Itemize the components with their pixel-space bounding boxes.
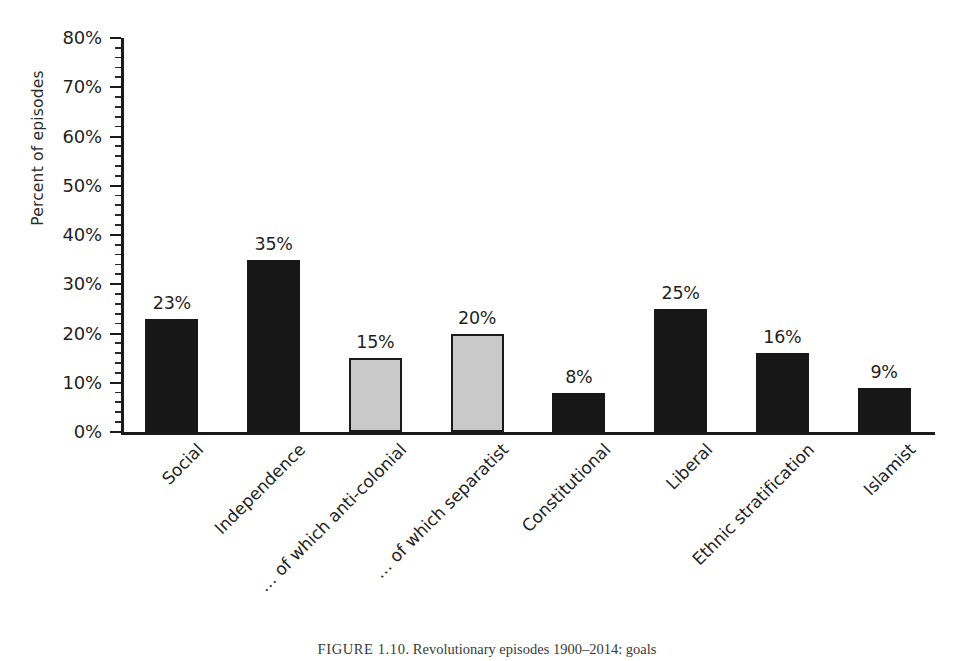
figure-caption-separator: . xyxy=(406,641,410,657)
y-axis-major-tick xyxy=(110,431,121,433)
y-axis-major-tick xyxy=(110,333,121,335)
figure-caption-text: Revolutionary episodes 1900–2014: goals xyxy=(413,641,657,657)
figure-number: FIGURE 1.10 xyxy=(318,641,406,657)
y-tick-label: 40% xyxy=(38,226,102,244)
y-axis-major-tick xyxy=(110,136,121,138)
y-tick-label: 20% xyxy=(38,325,102,343)
bar-group: 15% xyxy=(349,38,402,432)
x-axis-category-label: Social xyxy=(159,440,208,489)
y-axis-major-tick xyxy=(110,37,121,39)
y-axis-major-tick xyxy=(110,382,121,384)
bar-group: 25% xyxy=(654,38,707,432)
y-tick-label: 70% xyxy=(38,78,102,96)
y-tick-label: 30% xyxy=(38,275,102,293)
bar[interactable] xyxy=(756,353,809,432)
bar[interactable] xyxy=(552,393,605,432)
x-axis-category-labels: SocialIndependence… of which anti-coloni… xyxy=(121,432,935,612)
y-axis-major-tick xyxy=(110,86,121,88)
bar-value-label: 23% xyxy=(123,294,220,312)
x-axis-category-label: Independence xyxy=(211,440,309,538)
y-axis-major-tick xyxy=(110,283,121,285)
y-axis-major-tick xyxy=(110,234,121,236)
bar-group: 8% xyxy=(552,38,605,432)
bar-group: 23% xyxy=(145,38,198,432)
bar[interactable] xyxy=(145,319,198,432)
bar-group: 20% xyxy=(451,38,504,432)
bar-value-label: 35% xyxy=(225,235,322,253)
bars-layer: 23%35%15%20%8%25%16%9% xyxy=(121,38,935,432)
plot-area: 23%35%15%20%8%25%16%9% xyxy=(121,38,935,432)
bar[interactable] xyxy=(654,309,707,432)
bar[interactable] xyxy=(349,358,402,432)
x-axis-category-label: Islamist xyxy=(860,440,919,499)
y-tick-label: 0% xyxy=(38,423,102,441)
y-tick-label: 50% xyxy=(38,177,102,195)
x-axis-category-label: Liberal xyxy=(662,440,716,494)
x-axis-category-label: Constitutional xyxy=(518,440,614,536)
y-axis-tick-labels: 80%70%60%50%40%30%20%10%0% xyxy=(38,0,102,661)
y-axis-major-tick xyxy=(110,185,121,187)
bar-value-label: 16% xyxy=(734,328,831,346)
bar-group: 9% xyxy=(858,38,911,432)
bar-group: 35% xyxy=(247,38,300,432)
bar[interactable] xyxy=(858,388,911,432)
bar-value-label: 20% xyxy=(429,309,526,327)
y-tick-label: 60% xyxy=(38,128,102,146)
bar-value-label: 9% xyxy=(836,363,933,381)
y-tick-label: 80% xyxy=(38,29,102,47)
bar[interactable] xyxy=(247,260,300,432)
figure-container: Percent of episodes 80%70%60%50%40%30%20… xyxy=(0,0,974,661)
figure-caption: FIGURE 1.10. Revolutionary episodes 1900… xyxy=(0,641,974,658)
bar-value-label: 8% xyxy=(530,368,627,386)
bar-group: 16% xyxy=(756,38,809,432)
bar-value-label: 25% xyxy=(632,284,729,302)
bar-value-label: 15% xyxy=(327,333,424,351)
bar[interactable] xyxy=(451,334,504,433)
y-tick-label: 10% xyxy=(38,374,102,392)
